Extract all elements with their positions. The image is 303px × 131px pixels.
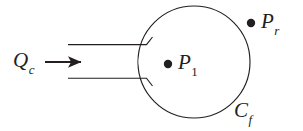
diagram-svg: [0, 0, 303, 131]
inflow-rate-subscript: c: [29, 62, 35, 77]
center-pressure-base: P: [178, 50, 191, 74]
center-point-dot: [164, 60, 172, 68]
inflow-rate-base: Q: [13, 48, 28, 72]
fracture-boundary-label: Cf: [234, 100, 252, 123]
center-pressure-label: P1: [178, 52, 197, 75]
right-pressure-label: Pr: [261, 11, 279, 34]
right-point-dot: [247, 19, 255, 27]
center-pressure-subscript: 1: [191, 64, 198, 79]
fracture-boundary-base: C: [234, 98, 248, 122]
right-pressure-subscript: r: [274, 23, 279, 38]
channel-upper-wall: [68, 37, 153, 45]
channel-lower-wall: [68, 78, 153, 86]
inflow-rate-label: Qc: [13, 50, 34, 73]
fracture-boundary-subscript: f: [249, 112, 253, 127]
right-pressure-base: P: [261, 9, 274, 33]
figure-canvas: Qc P1 Pr Cf: [0, 0, 303, 131]
